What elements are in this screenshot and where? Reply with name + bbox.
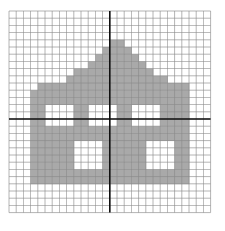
house-grid-diagram <box>8 10 212 214</box>
figure-canvas <box>0 0 225 231</box>
